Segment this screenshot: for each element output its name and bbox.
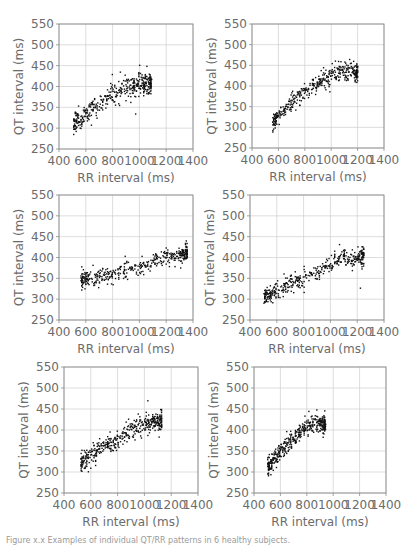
y-tick-label: 450	[226, 402, 249, 416]
y-tick-label: 550	[226, 360, 249, 374]
figure-caption: Figure x.x Examples of individual QT/RR …	[6, 536, 290, 545]
y-tick-label: 300	[226, 465, 249, 479]
y-tick-label: 500	[226, 381, 249, 395]
y-tick-label: 400	[226, 423, 249, 437]
data-points	[267, 409, 326, 476]
y-tick-label: 350	[226, 444, 249, 458]
x-tick-label: 600	[269, 498, 292, 512]
y-axis-title: QT interval (ms)	[207, 381, 221, 478]
x-axis-title: RR interval (ms)	[271, 515, 368, 529]
scatter-plot-6: 2503003504004505005504006008001000120014…	[0, 0, 412, 546]
x-tick-label: 800	[295, 498, 318, 512]
x-tick-label: 400	[243, 498, 266, 512]
x-tick-label: 1400	[371, 498, 402, 512]
